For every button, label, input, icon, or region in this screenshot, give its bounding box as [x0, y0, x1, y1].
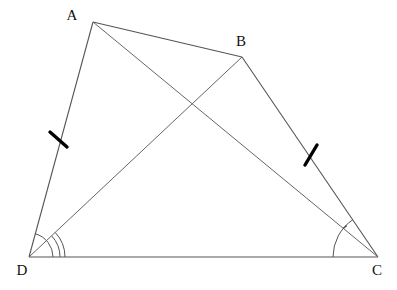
vertex-label-D: D: [17, 262, 28, 278]
vertex-label-C: C: [372, 262, 382, 278]
angle-arc-BCD: [333, 220, 353, 257]
geometry-canvas: A B C D: [0, 0, 397, 290]
geometry-figure: A B C D: [0, 0, 397, 290]
vertex-label-A: A: [67, 7, 78, 23]
vertex-label-B: B: [236, 33, 246, 49]
congruence-tick-AD: [50, 132, 67, 147]
diagonal-BD: [29, 57, 242, 257]
angle-tick-ACD: [344, 226, 347, 229]
diagonal-AC: [93, 22, 378, 257]
side-AB: [93, 22, 242, 57]
congruence-tick-BC: [305, 145, 317, 165]
